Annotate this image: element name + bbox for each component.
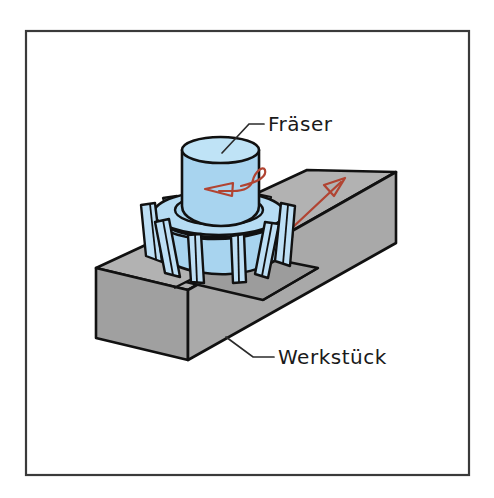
cutter-shank-top — [182, 137, 259, 163]
cutter-shank — [182, 137, 259, 226]
cutter-label: Fräser — [268, 112, 333, 136]
figure-root: Fräser Werkstück — [0, 0, 494, 498]
technical-diagram: Fräser Werkstück — [0, 0, 494, 498]
workpiece-label: Werkstück — [278, 345, 387, 369]
cutter-tooth-4-crease — [238, 235, 239, 283]
